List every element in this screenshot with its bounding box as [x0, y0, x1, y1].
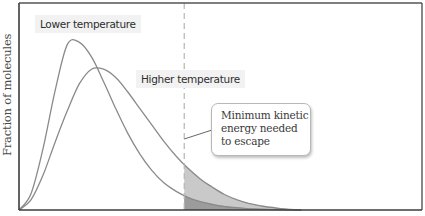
- higher-temperature-label: Higher temperature: [136, 70, 245, 88]
- callout-connector-line: [184, 130, 212, 139]
- y-axis-label: Fraction of molecules: [0, 56, 16, 156]
- kinetic-energy-diagram: Fraction of molecules Lower temperature …: [0, 0, 425, 216]
- callout-line: Minimum kinetic: [221, 109, 310, 122]
- lower-temperature-label: Lower temperature: [35, 15, 141, 33]
- minimum-energy-callout: Minimum kinetic energy needed to escape: [211, 103, 311, 156]
- callout-line: energy needed: [221, 122, 310, 135]
- callout-line: to escape: [221, 135, 310, 148]
